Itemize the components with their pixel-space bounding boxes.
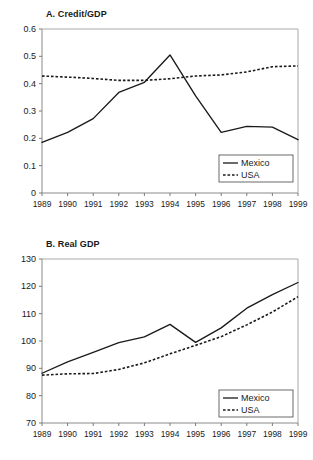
legend-label-usa: USA — [241, 405, 260, 415]
panel-b-plot: 7080901001101201301989199019911992199319… — [0, 230, 313, 460]
series-line-usa — [42, 297, 298, 375]
y-tick-label: 0.2 — [23, 133, 36, 143]
y-tick-label: 0.4 — [23, 79, 36, 89]
series-line-usa — [42, 66, 298, 80]
x-tick-label: 1993 — [135, 429, 154, 439]
x-tick-label: 1995 — [186, 429, 205, 439]
x-tick-label: 1998 — [263, 199, 282, 209]
x-tick-label: 1992 — [109, 199, 128, 209]
chart-panel-b: B. Real GDP 7080901001101201301989199019… — [0, 230, 313, 460]
y-tick-label: 130 — [21, 254, 36, 264]
legend-label-mexico: Mexico — [241, 393, 270, 403]
y-tick-label: 70 — [26, 418, 36, 428]
x-tick-label: 1997 — [237, 199, 256, 209]
y-tick-label: 0 — [31, 188, 36, 198]
y-tick-label: 0.5 — [23, 51, 36, 61]
legend-label-mexico: Mexico — [241, 158, 270, 168]
x-tick-label: 1994 — [161, 199, 180, 209]
y-tick-label: 120 — [21, 281, 36, 291]
series-line-mexico — [42, 55, 298, 142]
y-tick-label: 100 — [21, 336, 36, 346]
y-tick-label: 90 — [26, 363, 36, 373]
x-tick-label: 1997 — [237, 429, 256, 439]
x-tick-label: 1998 — [263, 429, 282, 439]
y-tick-label: 110 — [22, 309, 36, 319]
x-tick-label: 1991 — [84, 199, 103, 209]
x-tick-label: 1990 — [58, 199, 77, 209]
x-tick-label: 1995 — [186, 199, 205, 209]
y-tick-label: 0.1 — [23, 161, 36, 171]
y-tick-label: 0.6 — [23, 24, 36, 34]
x-tick-label: 1999 — [289, 429, 308, 439]
x-tick-label: 1991 — [84, 429, 103, 439]
y-tick-label: 0.3 — [23, 106, 36, 116]
series-line-mexico — [42, 283, 298, 374]
x-tick-label: 1996 — [212, 199, 231, 209]
x-tick-label: 1989 — [33, 199, 52, 209]
legend-label-usa: USA — [241, 170, 260, 180]
figure-two-panel-line-charts: A. Credit/GDP 00.10.20.30.40.50.61989199… — [0, 0, 313, 460]
x-tick-label: 1993 — [135, 199, 154, 209]
x-tick-label: 1989 — [33, 429, 52, 439]
y-tick-label: 80 — [26, 391, 36, 401]
x-tick-label: 1994 — [161, 429, 180, 439]
x-tick-label: 1992 — [109, 429, 128, 439]
x-tick-label: 1999 — [289, 199, 308, 209]
x-tick-label: 1996 — [212, 429, 231, 439]
chart-panel-a: A. Credit/GDP 00.10.20.30.40.50.61989199… — [0, 0, 313, 230]
x-tick-label: 1990 — [58, 429, 77, 439]
panel-a-plot: 00.10.20.30.40.50.6198919901991199219931… — [0, 0, 313, 230]
